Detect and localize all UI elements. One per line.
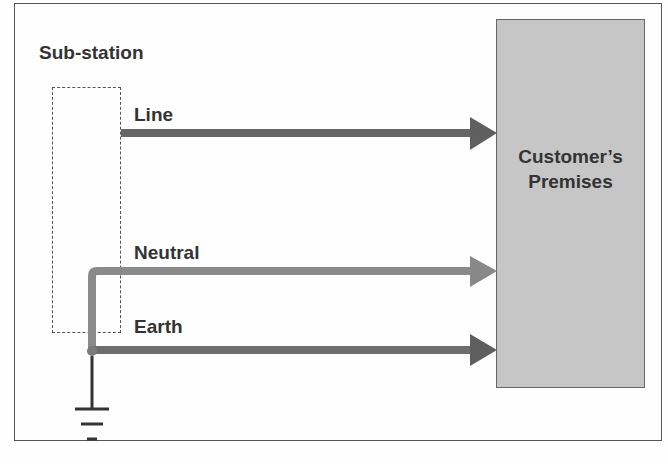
neutral-arrow-icon bbox=[470, 256, 497, 287]
line-arrow-icon bbox=[470, 117, 497, 150]
earth-conductor bbox=[87, 334, 497, 366]
line-conductor bbox=[121, 117, 497, 150]
neutral-conductor bbox=[92, 256, 497, 352]
ground-icon bbox=[75, 356, 109, 439]
wiring-diagram bbox=[0, 0, 668, 464]
earth-arrow-icon bbox=[470, 334, 497, 366]
